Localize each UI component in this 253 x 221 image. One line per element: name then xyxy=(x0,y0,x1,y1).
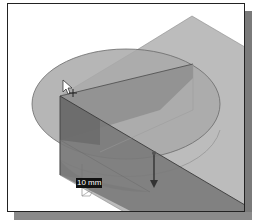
window-shadow-right xyxy=(245,11,252,220)
model-canvas[interactable] xyxy=(7,3,245,212)
window-shadow-bottom xyxy=(14,212,252,220)
dimension-value-input[interactable]: 10 mm xyxy=(76,178,102,188)
graphics-viewport[interactable]: 10 mm xyxy=(7,3,245,212)
